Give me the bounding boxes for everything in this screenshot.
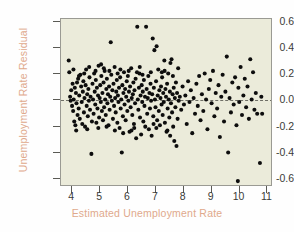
data-point [100,91,104,95]
data-point [114,110,118,114]
data-point [171,92,175,96]
data-point [120,151,124,155]
x-axis-tick-label: 7 [145,191,165,202]
data-point [207,87,211,91]
data-point [135,70,139,74]
data-point [248,57,252,61]
data-point [110,99,114,103]
data-point [149,70,153,74]
data-point [154,126,158,130]
data-point [121,91,125,95]
y-axis-tick [53,152,60,153]
data-point [82,71,86,75]
data-point [130,113,134,117]
data-point [72,119,76,123]
data-point [118,68,122,72]
data-point [105,77,109,81]
data-point [74,91,78,95]
data-point [88,108,92,112]
data-point [181,84,185,88]
data-point [200,92,204,96]
scatter-plot-figure: 0.60.40.20.0-0.2-0.4-0.6 4567891011 Esti… [0,0,294,232]
data-point [211,69,215,73]
data-point [183,93,187,97]
data-point [179,108,183,112]
data-point [91,97,95,101]
data-point [95,106,99,110]
data-point [86,114,90,118]
data-point [94,69,98,73]
data-point [85,104,89,108]
data-point [98,83,102,87]
data-point [140,73,144,77]
data-point [128,84,132,88]
data-point [205,127,209,131]
x-axis-tick-label: 10 [229,191,249,202]
data-point [105,125,109,129]
data-point [151,36,155,40]
data-point [81,90,85,94]
data-point [84,83,88,87]
data-point [119,106,123,110]
data-point [141,90,145,94]
data-point [157,109,161,113]
data-point [252,108,256,112]
data-point [133,101,137,105]
data-point [86,87,90,91]
data-point [82,110,86,114]
data-point [214,91,218,95]
data-point [230,81,234,85]
data-point [170,110,174,114]
data-point [168,61,172,65]
data-point [115,78,119,82]
data-point [71,109,75,113]
data-point [221,73,225,77]
y-axis-tick [53,126,60,127]
data-point [102,81,106,85]
data-point [108,95,112,99]
data-point [99,74,103,78]
data-point [197,74,201,78]
x-axis-tick-label: 4 [61,191,81,202]
data-point [233,75,237,79]
data-point [150,92,154,96]
data-point [174,81,178,85]
data-point [85,127,89,131]
data-point [131,92,135,96]
data-point [96,126,100,130]
data-point [199,118,203,122]
y-axis-tick-label: 0.0 [246,94,294,104]
y-axis-tick-label: -0.6 [246,173,294,183]
data-point [105,101,109,105]
data-point [192,96,196,100]
data-point [222,119,226,123]
data-point [102,105,106,109]
data-point [216,83,220,87]
data-point [232,103,236,107]
data-point [145,87,149,91]
data-point [151,114,155,118]
data-point [103,97,107,101]
data-point [193,112,197,116]
data-point [72,97,76,101]
data-point [94,121,98,125]
data-point [77,106,81,110]
data-point [219,95,223,99]
data-point [124,95,128,99]
data-point [87,65,91,69]
data-point [139,93,143,97]
data-point [67,58,71,62]
data-point [194,82,198,86]
data-point [127,90,131,94]
data-point [163,87,167,91]
data-point [120,83,124,87]
data-point [175,91,179,95]
data-point [134,77,138,81]
data-point [234,123,238,127]
data-point [87,99,91,103]
data-point [115,121,119,125]
data-point [201,109,205,113]
data-point [153,105,157,109]
data-point [176,66,180,70]
data-point [163,121,167,125]
